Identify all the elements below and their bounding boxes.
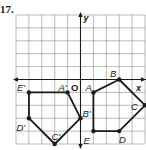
label-A-prime: A' <box>58 82 68 93</box>
y-axis-down-arrow-icon <box>78 144 82 149</box>
label-C: C <box>131 101 138 112</box>
vertex-point <box>91 90 95 94</box>
vertex-point <box>117 129 121 133</box>
label-A: A <box>85 82 92 93</box>
coordinate-plane: y x O A B C D E A' B' C' D' E' <box>0 0 146 150</box>
vertex-point <box>27 116 31 120</box>
label-E: E <box>84 135 91 146</box>
x-axis <box>13 77 146 81</box>
y-axis-up-arrow-icon <box>78 12 82 17</box>
label-E-prime: E' <box>17 82 26 93</box>
label-D-prime: D' <box>17 122 27 133</box>
vertex-point <box>91 129 95 133</box>
vertex-point <box>117 77 121 81</box>
vertex-point <box>27 90 31 94</box>
vertex-point <box>53 142 57 146</box>
origin-label: O <box>71 82 78 93</box>
label-D: D <box>119 134 126 145</box>
y-axis-label: y <box>83 13 90 23</box>
label-B-prime: B' <box>83 108 92 119</box>
x-axis-label: x <box>135 83 142 93</box>
label-C-prime: C' <box>52 131 62 142</box>
y-axis <box>78 12 82 149</box>
label-B: B <box>110 68 117 79</box>
